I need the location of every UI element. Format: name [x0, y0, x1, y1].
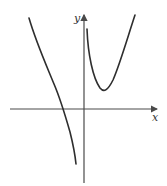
left-branch-curve: [29, 18, 76, 164]
right-branch-curve: [87, 15, 135, 90]
x-axis-label: x: [152, 111, 159, 124]
y-axis-label: y: [73, 12, 81, 25]
function-graph: y x: [0, 0, 167, 186]
